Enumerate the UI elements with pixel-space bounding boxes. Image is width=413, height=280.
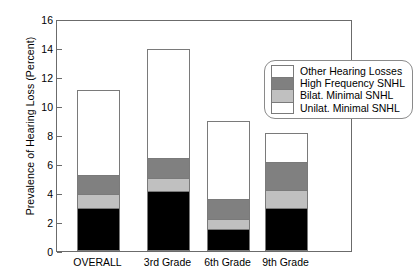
bar-segment-high-frequency-snhl [265,162,308,191]
bar-segment-other-hearing-losses [77,90,120,176]
bar-overall [77,90,120,251]
y-tick-mark [57,136,62,137]
legend-swatch-icon [271,89,294,101]
legend-rows: Other Hearing LossesHigh Frequency SNHLB… [271,65,405,114]
y-tick-label: 10 [41,101,53,113]
y-tick-label: 0 [47,246,53,258]
bar-segment-bilat-minimal-snhl [147,178,190,192]
bar-6th-grade [207,121,250,251]
bar-segment-unilat-minimal-snhl [147,191,190,251]
legend-label: Bilat. Minimal SNHL [300,89,393,101]
bar-segment-bilat-minimal-snhl [265,190,308,208]
x-axis-label-6th-grade: 6th Grade [204,256,251,268]
legend-entry-unilat-minimal-snhl[interactable]: Unilat. Minimal SNHL [271,102,405,114]
bar-segment-high-frequency-snhl [207,199,250,220]
bar-segment-unilat-minimal-snhl [77,208,120,252]
y-tick-label: 2 [47,217,53,229]
y-tick-mark [57,20,62,21]
y-tick-label: 14 [41,43,53,55]
y-tick-mark [57,49,62,50]
bar-segment-high-frequency-snhl [77,175,120,195]
legend-swatch-icon [271,77,294,89]
bar-3rd-grade [147,49,190,251]
bar-segment-unilat-minimal-snhl [265,208,308,252]
legend-label: Other Hearing Losses [300,65,402,77]
y-tick-mark [57,78,62,79]
y-tick-label: 6 [47,159,53,171]
legend-label: Unilat. Minimal SNHL [300,102,400,114]
bar-segment-other-hearing-losses [265,133,308,163]
y-tick-mark [57,252,62,253]
bar-segment-other-hearing-losses [207,121,250,200]
bar-9th-grade [265,133,308,251]
y-tick-label: 16 [41,14,53,26]
plot-area: 0246810121416 Other Hearing LossesHigh F… [56,20,352,252]
y-tick-mark [57,165,62,166]
x-axis-label-overall: OVERALL [73,256,121,268]
bar-segment-unilat-minimal-snhl [207,229,250,251]
legend-entry-other-hearing-losses[interactable]: Other Hearing Losses [271,65,405,77]
legend-swatch-icon [271,65,294,77]
y-tick-label: 8 [47,130,53,142]
y-tick-label: 12 [41,72,53,84]
y-tick-mark [57,223,62,224]
y-tick-mark [57,194,62,195]
bar-segment-high-frequency-snhl [147,158,190,179]
bar-segment-bilat-minimal-snhl [77,194,120,209]
bar-segment-other-hearing-losses [147,49,190,159]
y-tick-mark [57,107,62,108]
y-tick-label: 4 [47,188,53,200]
chart-legend: Other Hearing LossesHigh Frequency SNHLB… [264,60,413,119]
x-axis-label-9th-grade: 9th Grade [262,256,309,268]
legend-entry-high-frequency-snhl[interactable]: High Frequency SNHL [271,77,405,89]
legend-entry-bilat-minimal-snhl[interactable]: Bilat. Minimal SNHL [271,89,405,101]
y-axis-title: Prevalence of Hearing Loss (Percent) [24,11,36,241]
legend-swatch-icon [271,102,294,114]
x-axis-label-3rd-grade: 3rd Grade [144,256,191,268]
legend-label: High Frequency SNHL [300,77,405,89]
